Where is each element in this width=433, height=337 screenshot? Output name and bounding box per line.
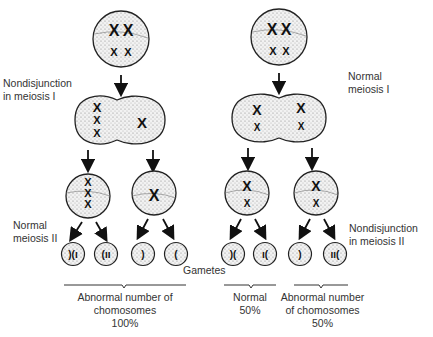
svg-text:ı(: ı( (262, 249, 269, 260)
gamete-3: ) (132, 243, 155, 266)
svg-text:X: X (93, 114, 101, 126)
svg-text:X: X (110, 46, 118, 58)
label-nondisjunction-meiosis-1: Nondisjunction in meiosis I (3, 77, 72, 103)
left-meiosis2-cell-b: X (132, 171, 176, 215)
svg-text:X: X (84, 198, 92, 210)
svg-text:X: X (149, 187, 160, 204)
svg-text:X: X (137, 114, 147, 131)
gamete-1: )(ı (62, 243, 85, 266)
svg-text:X: X (311, 178, 321, 194)
svg-text:X: X (254, 122, 261, 133)
label-gametes: Gametes (183, 264, 226, 277)
gamete-7: ) (289, 243, 312, 266)
outcome-abnormal-100: Abnormal number of chomosomes 100% (65, 291, 185, 330)
left-dividing-cell: X X X X (75, 96, 165, 144)
gamete-4: ( (165, 243, 188, 266)
svg-text:X: X (281, 21, 292, 38)
svg-text:)(: )( (230, 249, 237, 260)
svg-text:X: X (282, 45, 290, 57)
svg-text:X: X (123, 22, 134, 39)
svg-text:X: X (252, 102, 262, 118)
svg-text:): ) (298, 249, 301, 260)
svg-text:(ıı: (ıı (102, 249, 111, 260)
svg-text:X: X (244, 198, 251, 209)
right-meiosis2-cell-a: X X (225, 171, 269, 215)
svg-text:X: X (242, 178, 252, 194)
svg-text:X: X (109, 22, 120, 39)
gamete-2: (ıı (95, 243, 118, 266)
brace-abnormal-50 (294, 285, 348, 288)
svg-text:X: X (298, 121, 305, 132)
right-meiosis2-cell-b: X X (294, 171, 338, 215)
label-normal-meiosis-2: Normal meiosis II (13, 219, 57, 245)
svg-text:X: X (269, 45, 277, 57)
outcome-normal-50: Normal 50% (220, 291, 280, 317)
gamete-8: ıı( (324, 243, 347, 266)
label-normal-meiosis-1: Normal meiosis I (348, 70, 389, 96)
gamete-6: ı( (254, 243, 277, 266)
svg-text:X: X (296, 100, 306, 116)
brace-abnormal-100 (64, 285, 186, 288)
svg-text:)(ı: )(ı (68, 249, 78, 260)
svg-text:X: X (267, 21, 278, 38)
right-parent-cell: X X X X (251, 9, 307, 65)
left-meiosis2-cell-a: X X X (66, 174, 110, 218)
gamete-5: )( (222, 243, 245, 266)
svg-text:X: X (93, 100, 102, 115)
outcome-abnormal-50: Abnormal number of chomosomes 50% (280, 291, 365, 330)
svg-text:X: X (124, 46, 132, 58)
svg-text:X: X (93, 127, 101, 139)
left-parent-cell: X X X X (93, 11, 149, 67)
svg-text:ıı(: ıı( (331, 249, 341, 260)
label-nondisjunction-meiosis-2: Nondisjunction in meiosis II (349, 222, 418, 248)
svg-text:): ) (141, 249, 144, 260)
meiosis-diagram: X X X X X X X X X X X X )(ı (ıı ) (0, 0, 433, 337)
brace-normal-50 (224, 285, 276, 288)
svg-text:X: X (313, 198, 320, 209)
right-dividing-cell: X X X X (232, 94, 326, 142)
